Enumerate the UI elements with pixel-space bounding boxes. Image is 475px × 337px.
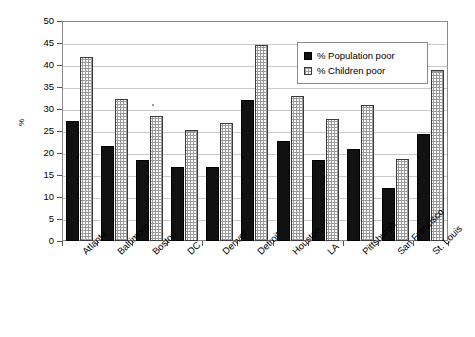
x-tick-label: LA	[325, 241, 341, 257]
bar-population-poor	[101, 146, 114, 241]
bar-group	[167, 21, 202, 241]
bar-group	[237, 21, 272, 241]
bar-population-poor	[277, 141, 290, 241]
bar-population-poor	[347, 149, 360, 241]
y-tick-label: 20	[28, 147, 54, 158]
bar-children-poor	[361, 105, 374, 241]
y-tick-label: 0	[28, 235, 54, 246]
x-tick-label: DC	[185, 239, 202, 256]
x-tick-mark	[62, 241, 63, 246]
x-tick-mark	[343, 241, 344, 246]
chart-legend: % Population poor % Children poor	[297, 42, 428, 84]
legend-swatch-population-poor	[304, 52, 312, 60]
y-tick-label: 50	[28, 15, 54, 26]
legend-item-population-poor: % Population poor	[304, 50, 421, 61]
bar-children-poor	[220, 123, 233, 241]
y-tick-label: 35	[28, 81, 54, 92]
legend-swatch-children-poor	[304, 67, 312, 75]
bar-group	[132, 21, 167, 241]
legend-label-children-poor: % Children poor	[317, 65, 385, 76]
y-tick-label: 45	[28, 37, 54, 48]
bar-children-poor	[291, 96, 304, 241]
y-tick-label: 10	[28, 191, 54, 202]
bar-chart: % 50454035302520151050 AtlantaBaltimoreB…	[0, 0, 475, 337]
bar-group	[97, 21, 132, 241]
y-tick-label: 5	[28, 213, 54, 224]
bar-children-poor	[326, 119, 339, 241]
bar-children-poor	[80, 57, 93, 241]
y-tick-label: 30	[28, 103, 54, 114]
y-tick-label: 40	[28, 59, 54, 70]
bar-children-poor	[115, 99, 128, 241]
x-tick-mark	[202, 241, 203, 246]
y-tick-label: 15	[28, 169, 54, 180]
bar-population-poor	[66, 121, 79, 241]
bar-group	[202, 21, 237, 241]
bar-population-poor	[206, 167, 219, 241]
legend-label-population-poor: % Population poor	[317, 50, 395, 61]
bar-children-poor	[150, 116, 163, 241]
bar-children-poor	[396, 159, 409, 241]
bar-group	[62, 21, 97, 241]
y-tick-label: 25	[28, 125, 54, 136]
bar-children-poor	[255, 45, 268, 241]
bar-population-poor	[241, 100, 254, 241]
legend-item-children-poor: % Children poor	[304, 65, 421, 76]
bar-children-poor	[185, 130, 198, 241]
y-axis-title: %	[17, 119, 26, 126]
